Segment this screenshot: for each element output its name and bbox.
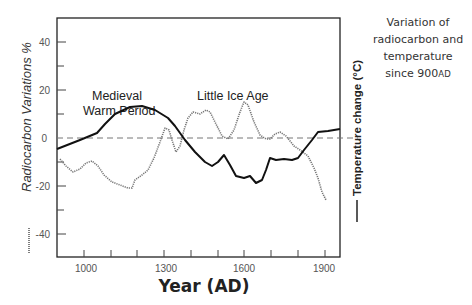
y-tick-label: -40: [36, 229, 51, 240]
caption-since-text: since 900: [385, 67, 438, 80]
caption-line: Variation of: [368, 14, 468, 31]
y-tick-label: 20: [39, 85, 51, 96]
caption-ad-text: AD: [438, 69, 450, 79]
y-axis-label-right-group: Temperature change (°C): [351, 60, 363, 222]
y-tick-label: 40: [39, 37, 51, 48]
y-tick-label: 0: [41, 133, 47, 144]
x-tick-label: 1900: [313, 263, 336, 274]
y-tick-label: -20: [36, 181, 51, 192]
caption-line: since 900AD: [368, 65, 468, 83]
x-tick-label: 1600: [233, 263, 256, 274]
caption-line: radiocarbon and: [368, 31, 468, 48]
y-axis-label-left: Radiocarbon Variations %: [19, 42, 34, 192]
x-tick-label: 1300: [155, 263, 178, 274]
x-tick-label: 1000: [75, 263, 98, 274]
y-axis-label-left-group: Radiocarbon Variations %: [19, 42, 34, 253]
annotation-medieval-warm-period: Medieval Warm Period: [83, 89, 156, 118]
x-axis-label: Year (AD): [158, 276, 250, 296]
x-axis-ticks: [84, 250, 325, 257]
y-axis-label-right: Temperature change (°C): [351, 60, 363, 196]
annotation-little-ice-age: Little Ice Age: [197, 89, 269, 103]
caption-line: temperature: [368, 48, 468, 65]
chart-caption: Variation of radiocarbon and temperature…: [368, 14, 468, 83]
